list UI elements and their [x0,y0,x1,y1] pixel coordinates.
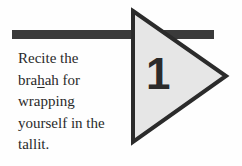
step-instruction: Recite the brahah for wrapping yourself … [18,48,118,156]
step-number: 1 [146,52,170,96]
instruction-text-underlined: h [37,72,45,88]
